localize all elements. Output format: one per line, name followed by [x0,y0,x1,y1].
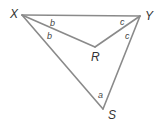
angle-label-c-lower: c [125,31,130,41]
angle-label-c-upper: c [120,17,125,27]
vertex-label-y: Y [145,9,154,23]
triangle-diagram: X Y R S b b c c a [0,0,162,124]
angle-label-b-lower: b [47,31,52,41]
edge-y-s [103,16,140,109]
vertex-label-x: X [9,7,19,21]
angle-label-a: a [98,90,103,100]
vertex-label-r: R [91,50,100,64]
vertex-label-s: S [108,108,116,122]
edge-x-y [22,15,140,16]
edge-x-r [22,15,95,47]
angle-label-b-upper: b [50,18,55,28]
